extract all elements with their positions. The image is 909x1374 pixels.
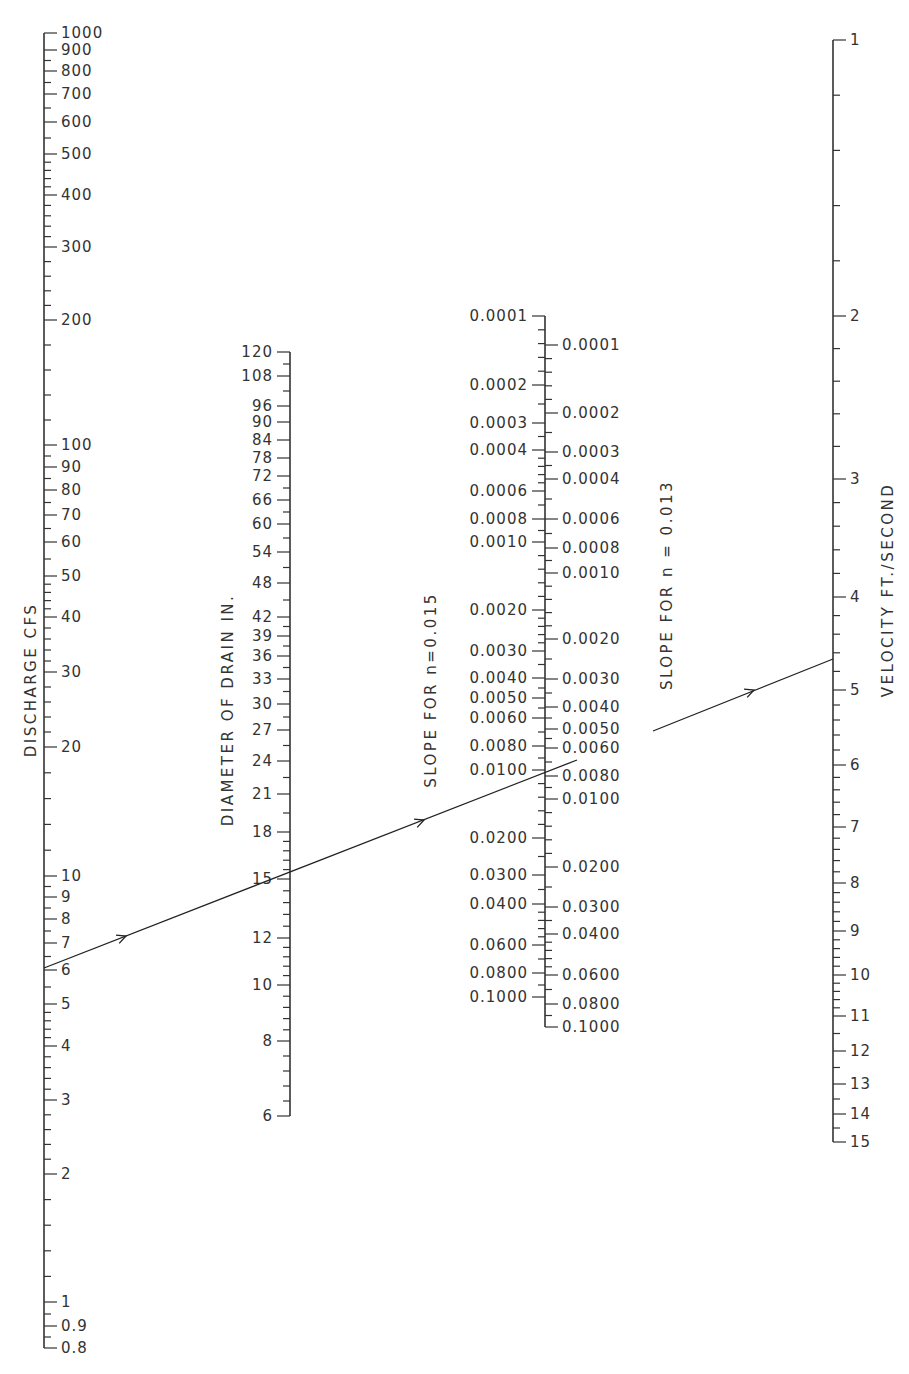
tick-label: 0.8 — [61, 1339, 88, 1357]
tick-label: 0.0006 — [562, 510, 621, 528]
tick-label: 0.0020 — [562, 630, 621, 648]
tick-label: 0.0010 — [562, 564, 621, 582]
tick-label: 27 — [252, 721, 273, 739]
tick-label: 13 — [850, 1075, 871, 1093]
tick-label: 0.0004 — [562, 470, 621, 488]
tick-label: 0.0080 — [470, 737, 529, 755]
velocity-axis-title: VELOCITY FT./SECOND — [879, 483, 897, 697]
tick-label: 0.0004 — [470, 441, 529, 459]
tick-label: 48 — [252, 574, 273, 592]
tick-label: 0.1000 — [562, 1018, 621, 1036]
tick-label: 108 — [241, 367, 273, 385]
tick-label: 60 — [252, 515, 273, 533]
diameter-axis-title: DIAMETER OF DRAIN IN. — [219, 594, 237, 827]
tick-label: 0.0300 — [470, 866, 529, 884]
tick-label: 0.0300 — [562, 898, 621, 916]
tick-label: 0.0010 — [470, 533, 529, 551]
tick-label: 120 — [241, 343, 273, 361]
tick-label: 0.0030 — [470, 642, 529, 660]
tick-label: 0.0200 — [470, 829, 529, 847]
tick-label: 0.1000 — [470, 988, 529, 1006]
tick-label: 0.0040 — [562, 698, 621, 716]
tick-label: 2 — [850, 307, 861, 325]
tick-label: 0.0060 — [470, 709, 529, 727]
tick-label: 800 — [61, 62, 93, 80]
tick-label: 84 — [252, 431, 273, 449]
tick-label: 0.0001 — [470, 307, 529, 325]
tick-label: 0.9 — [61, 1317, 88, 1335]
tick-label: 2 — [61, 1165, 72, 1183]
tick-label: 40 — [61, 608, 82, 626]
tick-label: 30 — [252, 695, 273, 713]
tick-label: 24 — [252, 752, 273, 770]
tick-label: 0.0800 — [562, 995, 621, 1013]
tick-label: 21 — [252, 785, 273, 803]
tick-label: 54 — [252, 543, 273, 561]
tick-label: 0.0002 — [470, 376, 529, 394]
tick-label: 900 — [61, 41, 93, 59]
tick-label: 12 — [252, 929, 273, 947]
tick-label: 0.0050 — [562, 720, 621, 738]
tick-label: 1000 — [61, 24, 103, 42]
tick-label: 0.0100 — [562, 790, 621, 808]
tick-label: 90 — [252, 413, 273, 431]
tick-label: 6 — [262, 1107, 273, 1125]
tick-label: 66 — [252, 491, 273, 509]
tick-label: 0.0200 — [562, 858, 621, 876]
tick-label: 39 — [252, 627, 273, 645]
scales-layer: 1000900800700600500400300200100908070605… — [22, 24, 897, 1357]
tick-label: 700 — [61, 85, 93, 103]
tick-label: 7 — [850, 818, 861, 836]
tick-label: 400 — [61, 186, 93, 204]
tick-label: 0.0400 — [470, 895, 529, 913]
tick-label: 0.0600 — [470, 936, 529, 954]
tick-label: 0.0400 — [562, 925, 621, 943]
tick-label: 90 — [61, 458, 82, 476]
tick-label: 3 — [61, 1091, 72, 1109]
tick-label: 500 — [61, 145, 93, 163]
tick-label: 1 — [850, 31, 861, 49]
tick-label: 7 — [61, 934, 72, 952]
discharge-axis-title: DISCHARGE CFS — [22, 603, 40, 758]
tick-label: 10 — [252, 976, 273, 994]
tick-label: 200 — [61, 311, 93, 329]
velocity-scale: 123456789101112131415VELOCITY FT./SECOND — [833, 31, 897, 1151]
tick-label: 0.0060 — [562, 739, 621, 757]
tick-label: 0.0003 — [562, 443, 621, 461]
tick-label: 30 — [61, 663, 82, 681]
tick-label: 20 — [61, 738, 82, 756]
tick-label: 3 — [850, 470, 861, 488]
tick-label: 42 — [252, 608, 273, 626]
tick-label: 0.0080 — [562, 767, 621, 785]
slope-n015-axis-title: SLOPE FOR n=0.015 — [422, 592, 440, 788]
tick-label: 60 — [61, 533, 82, 551]
tick-label: 0.0050 — [470, 689, 529, 707]
tick-label: 9 — [850, 922, 861, 940]
tick-label: 100 — [61, 436, 93, 454]
tick-label: 300 — [61, 238, 93, 256]
tick-label: 14 — [850, 1105, 871, 1123]
tick-label: 78 — [252, 449, 273, 467]
tick-label: 6 — [61, 961, 72, 979]
tick-label: 0.0040 — [470, 669, 529, 687]
tick-label: 50 — [61, 567, 82, 585]
tick-label: 0.0001 — [562, 336, 621, 354]
tick-label: 4 — [850, 588, 861, 606]
tick-label: 70 — [61, 506, 82, 524]
tick-label: 0.0800 — [470, 964, 529, 982]
nomograph: 1000900800700600500400300200100908070605… — [0, 0, 909, 1374]
tick-label: 36 — [252, 647, 273, 665]
tick-label: 0.0006 — [470, 482, 529, 500]
tick-label: 0.0100 — [470, 761, 529, 779]
tick-label: 0.0030 — [562, 670, 621, 688]
tick-label: 80 — [61, 481, 82, 499]
tick-label: 10 — [61, 867, 82, 885]
diameter-scale: 1201089690847872666054484239363330272421… — [219, 343, 290, 1125]
solution-segment — [653, 659, 833, 731]
tick-label: 15 — [850, 1133, 871, 1151]
tick-label: 0.0008 — [470, 510, 529, 528]
tick-label: 33 — [252, 670, 273, 688]
tick-label: 8 — [61, 910, 72, 928]
tick-label: 18 — [252, 823, 273, 841]
tick-label: 0.0008 — [562, 539, 621, 557]
